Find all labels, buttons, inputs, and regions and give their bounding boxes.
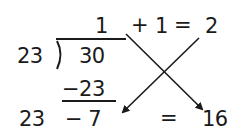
division-bracket xyxy=(57,41,61,69)
arrow-to-7 xyxy=(123,38,199,112)
division-lines-and-arrows xyxy=(0,0,245,140)
